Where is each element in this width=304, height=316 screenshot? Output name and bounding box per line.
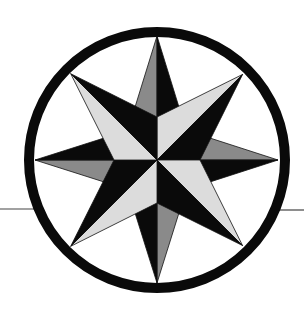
compass-rose-icon — [0, 0, 304, 316]
compass-rose-figure — [0, 0, 304, 316]
